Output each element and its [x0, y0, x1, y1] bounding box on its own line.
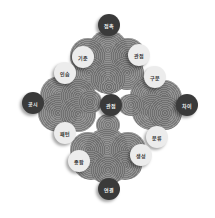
node-label: 공시 — [28, 100, 38, 107]
node-label: 관점 — [134, 52, 144, 59]
node-left-outer: 공시 — [22, 92, 44, 114]
petal-shape — [78, 90, 102, 114]
node-center: 관점 — [100, 94, 122, 116]
node-label: 차이 — [182, 102, 192, 109]
node-top-outer: 접촉 — [98, 14, 120, 36]
node-right-upper: 구분 — [144, 66, 166, 88]
node-bottom-outer: 연결 — [98, 178, 120, 200]
node-left-lower: 패턴 — [54, 122, 76, 144]
node-right-lower: 분류 — [146, 126, 168, 148]
node-label: 구분 — [150, 74, 160, 81]
node-bottom-right: 생성 — [130, 144, 152, 166]
node-bottom-left: 종합 — [68, 150, 90, 172]
node-label: 패턴 — [60, 130, 70, 137]
node-label: 인습 — [60, 70, 70, 77]
node-top-right: 관점 — [128, 44, 150, 66]
petal-stem — [98, 80, 120, 94]
node-label: 관점 — [106, 102, 116, 109]
node-label: 종합 — [74, 158, 84, 165]
node-top-left: 기준 — [72, 46, 94, 68]
node-label: 접촉 — [104, 22, 114, 29]
node-label: 기준 — [78, 54, 88, 61]
node-label: 분류 — [152, 134, 162, 141]
node-label: 연결 — [104, 186, 114, 193]
node-right-outer: 차이 — [176, 94, 198, 116]
diagram-canvas: 접촉 기준 관점 공시 인습 패턴 차이 구분 분류 연결 종합 생성 관점 — [0, 0, 215, 218]
node-label: 생성 — [136, 152, 146, 159]
node-left-upper: 인습 — [54, 62, 76, 84]
